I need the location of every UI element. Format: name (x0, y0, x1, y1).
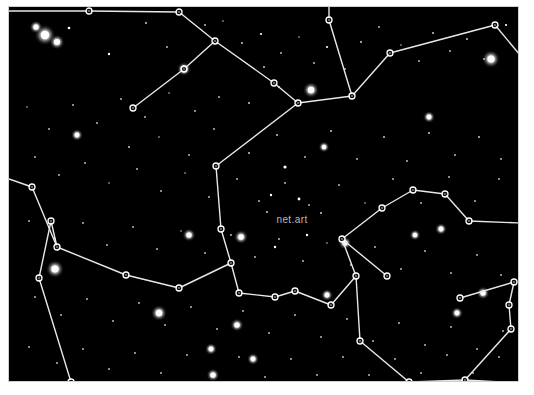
background-star (400, 44, 402, 46)
node-center-dot (70, 381, 71, 382)
background-star (325, 293, 330, 298)
background-star (326, 46, 328, 48)
background-star (60, 314, 62, 316)
node-center-dot (132, 107, 133, 108)
node-center-dot (494, 24, 495, 25)
background-star (266, 211, 268, 213)
background-star (106, 244, 108, 246)
background-star (383, 136, 385, 138)
background-star (138, 302, 140, 304)
background-star (283, 165, 286, 168)
background-star (54, 39, 60, 45)
background-star (108, 182, 110, 184)
background-star (68, 27, 71, 30)
background-star (75, 133, 80, 138)
background-star (502, 330, 504, 332)
background-star (450, 272, 452, 274)
node-center-dot (468, 220, 469, 221)
background-star (184, 172, 186, 174)
background-star (204, 252, 206, 254)
background-star (424, 250, 426, 252)
background-star (160, 372, 162, 374)
sky-frame: net.art (8, 6, 519, 382)
background-star (268, 332, 270, 334)
background-star (400, 268, 402, 270)
background-star (156, 310, 162, 316)
background-star (280, 52, 282, 54)
background-star (500, 274, 502, 276)
node-center-dot (178, 287, 179, 288)
background-star (432, 32, 434, 34)
node-center-dot (389, 52, 390, 53)
background-star (209, 347, 214, 352)
constellation-node[interactable] (406, 379, 412, 382)
background-star (112, 320, 114, 322)
node-center-dot (178, 11, 179, 12)
background-star (234, 322, 239, 327)
background-star (308, 87, 314, 93)
background-star (216, 328, 218, 330)
background-star (51, 265, 58, 272)
background-star (420, 372, 422, 374)
background-star (322, 145, 326, 149)
background-star (34, 296, 36, 298)
background-star (248, 152, 250, 154)
background-star (34, 156, 36, 158)
background-star (448, 176, 450, 178)
background-star (302, 260, 304, 262)
background-star (304, 156, 306, 158)
node-center-dot (297, 102, 298, 103)
background-star (58, 174, 60, 176)
background-star (108, 368, 110, 370)
node-center-dot (408, 381, 409, 382)
background-star (238, 356, 240, 358)
background-star (505, 24, 507, 26)
background-star (478, 136, 480, 138)
node-center-dot (381, 207, 382, 208)
background-star (145, 22, 147, 24)
node-center-dot (444, 193, 445, 194)
background-star (33, 24, 38, 29)
background-star (274, 246, 276, 248)
node-center-dot (510, 328, 511, 329)
background-star (454, 154, 456, 156)
background-star (208, 196, 210, 198)
node-center-dot (38, 277, 39, 278)
background-star (278, 238, 280, 240)
background-star (204, 24, 206, 26)
background-star (263, 66, 265, 68)
background-star (134, 352, 136, 354)
background-star (316, 374, 318, 376)
background-star (168, 92, 170, 94)
background-star (270, 194, 272, 196)
background-star (360, 41, 362, 43)
node-center-dot (230, 262, 231, 263)
node-center-dot (328, 19, 329, 20)
background-star (136, 168, 138, 170)
node-center-dot (355, 275, 356, 276)
background-star (210, 372, 215, 377)
background-star (378, 26, 380, 28)
background-star (188, 154, 190, 156)
background-star (306, 234, 308, 236)
node-center-dot (238, 292, 239, 293)
background-star (258, 200, 260, 202)
node-center-dot (274, 296, 275, 297)
background-star (96, 122, 98, 124)
background-star (276, 134, 278, 136)
background-star (213, 128, 215, 130)
node-center-dot (214, 40, 215, 41)
background-star (264, 376, 266, 378)
background-star (406, 160, 408, 162)
star-map-root: net.art (0, 0, 534, 395)
background-star (474, 200, 476, 202)
background-star (427, 115, 432, 120)
background-star (242, 310, 244, 312)
background-star (413, 233, 417, 237)
background-star (428, 132, 430, 134)
constellation-node[interactable] (68, 379, 74, 382)
background-star (84, 162, 86, 164)
constellation-line (89, 11, 179, 12)
background-star (498, 356, 500, 358)
node-center-dot (215, 165, 216, 166)
